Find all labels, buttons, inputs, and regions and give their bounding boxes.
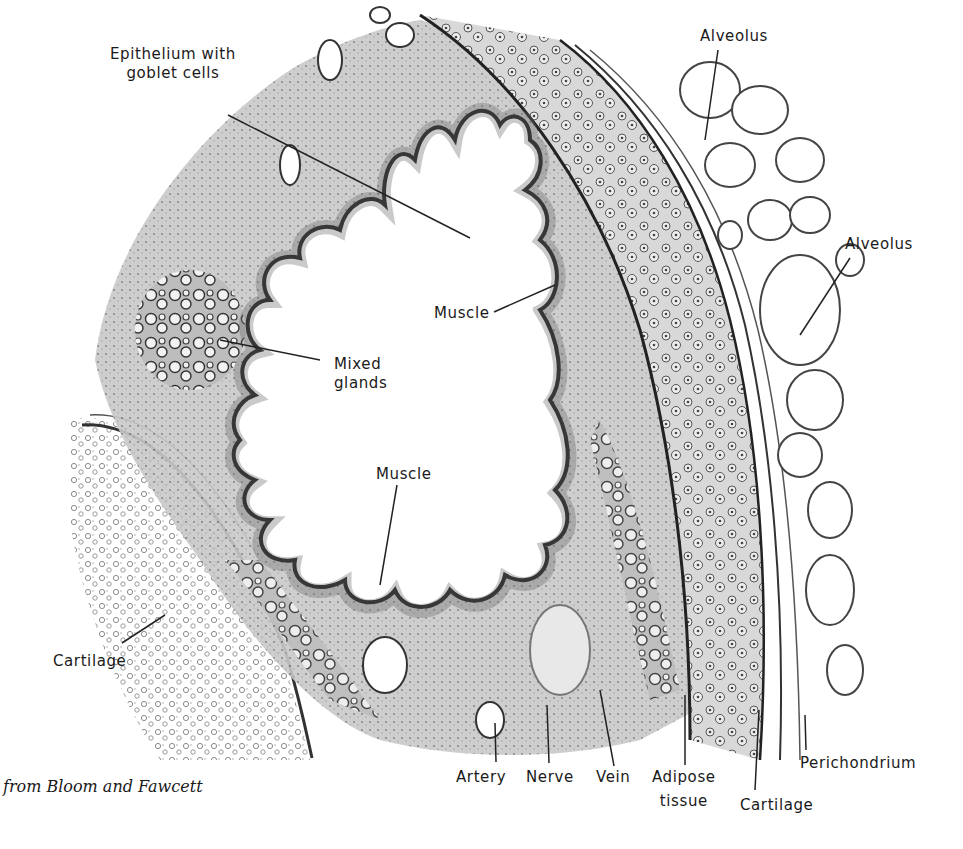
label-muscle-right: Muscle xyxy=(434,304,490,323)
label-mixed-glands-line1: Mixed xyxy=(334,355,387,374)
label-adipose: Adipose tissue xyxy=(652,768,716,811)
label-epithelium: Epithelium with goblet cells xyxy=(110,45,236,83)
label-epithelium-line2: goblet cells xyxy=(110,64,236,83)
label-vein: Vein xyxy=(596,768,630,787)
label-adipose-line2: tissue xyxy=(652,792,716,811)
label-epithelium-line1: Epithelium with xyxy=(110,45,236,64)
label-artery: Artery xyxy=(456,768,506,787)
label-alveolus-top: Alveolus xyxy=(700,27,768,46)
label-nerve: Nerve xyxy=(526,768,574,787)
label-perichondrium: Perichondrium xyxy=(800,754,916,773)
tissue-illustration xyxy=(0,0,963,849)
label-mixed-glands: Mixed glands xyxy=(334,355,387,393)
figure-credit: from Bloom and Fawcett xyxy=(3,777,203,796)
label-mixed-glands-line2: glands xyxy=(334,374,387,393)
label-adipose-line1: Adipose xyxy=(652,768,716,787)
label-alveolus-right: Alveolus xyxy=(845,235,913,254)
label-muscle-bottom: Muscle xyxy=(376,465,432,484)
label-cartilage-bottom: Cartilage xyxy=(740,796,813,815)
bronchus-histology-figure: Epithelium with goblet cells Alveolus Al… xyxy=(0,0,963,849)
label-cartilage-left: Cartilage xyxy=(53,652,126,671)
